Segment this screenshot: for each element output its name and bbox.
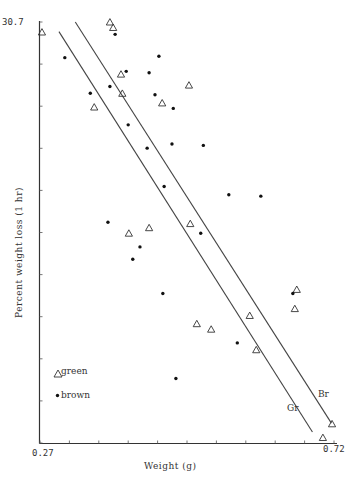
scatter-chart: 30.7 0.27 0.72 Weight (g) Percent weight…	[0, 0, 356, 479]
data-point-green	[185, 82, 192, 88]
data-point-green	[328, 420, 335, 426]
data-point-green	[106, 19, 113, 25]
y-max-tick-label: 30.7	[2, 17, 24, 27]
data-point-brown	[113, 33, 116, 36]
data-point-brown	[63, 56, 66, 59]
data-point-brown	[131, 258, 134, 261]
data-point-green	[293, 286, 300, 292]
data-point-brown	[157, 55, 160, 58]
x-axis-title: Weight (g)	[144, 461, 197, 471]
data-point-brown	[125, 70, 128, 73]
data-point-brown	[162, 185, 165, 188]
data-point-green	[246, 312, 253, 318]
data-point-brown	[108, 85, 111, 88]
data-point-brown	[138, 245, 141, 248]
data-point-brown	[161, 292, 164, 295]
data-point-green	[159, 100, 166, 106]
series-green	[38, 19, 335, 441]
data-point-green	[91, 104, 98, 110]
data-point-brown	[199, 231, 202, 234]
regression-line-br	[75, 22, 331, 423]
data-point-green	[193, 320, 200, 326]
dot-icon	[56, 394, 59, 397]
data-point-brown	[174, 377, 177, 380]
data-point-brown	[145, 146, 148, 149]
data-point-green	[125, 230, 132, 236]
data-point-brown	[227, 193, 230, 196]
data-point-green	[187, 220, 194, 226]
legend: green brown	[54, 366, 90, 400]
data-point-brown	[170, 142, 173, 145]
data-point-brown	[172, 107, 175, 110]
legend-label-brown: brown	[61, 390, 90, 400]
data-point-green	[291, 305, 298, 311]
data-point-green	[208, 326, 215, 332]
data-point-brown	[106, 221, 109, 224]
data-point-green	[319, 434, 326, 440]
y-axis-title: Percent weight loss (1 hr)	[14, 187, 24, 318]
regression-line-gr	[59, 32, 312, 432]
x-min-tick-label: 0.27	[32, 448, 54, 458]
data-point-brown	[259, 194, 262, 197]
data-point-brown	[153, 93, 156, 96]
data-point-brown	[236, 341, 239, 344]
legend-label-green: green	[61, 366, 88, 376]
regression-label-gr: Gr	[287, 403, 299, 413]
data-point-green	[146, 224, 153, 230]
regression-label-br: Br	[318, 389, 330, 399]
data-point-brown	[202, 144, 205, 147]
data-point-brown	[127, 123, 130, 126]
plot-area	[38, 19, 337, 444]
data-point-brown	[89, 92, 92, 95]
regression-lines	[59, 22, 331, 432]
data-point-brown	[291, 292, 294, 295]
data-point-brown	[147, 71, 150, 74]
series-brown	[63, 33, 294, 381]
x-max-tick-label: 0.72	[323, 444, 345, 454]
data-point-green	[117, 71, 124, 77]
